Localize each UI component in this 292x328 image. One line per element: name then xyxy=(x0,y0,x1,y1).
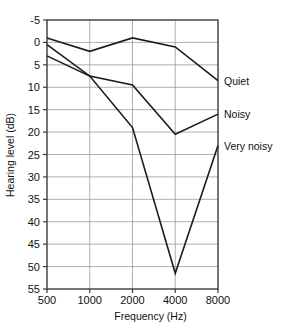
y-tick-label: 20 xyxy=(28,126,40,138)
y-tick-label: 25 xyxy=(28,149,40,161)
y-axis-tick-labels-group: -50510152025303540455055 xyxy=(28,14,40,295)
y-tick-label: 50 xyxy=(28,261,40,273)
y-tick-label: 0 xyxy=(34,36,40,48)
series-label-quiet: Quiet xyxy=(224,75,249,87)
x-tick-label: 1000 xyxy=(78,294,102,306)
x-tick-label: 2000 xyxy=(120,294,144,306)
x-tick-label: 8000 xyxy=(206,294,230,306)
x-axis-tick-labels-group: 5001000200040008000 xyxy=(38,294,230,306)
y-tick-label: 10 xyxy=(28,81,40,93)
series-label-noisy: Noisy xyxy=(224,108,251,120)
y-axis-title: Hearing level (dB) xyxy=(4,113,16,197)
y-tick-label: 30 xyxy=(28,171,40,183)
x-tick-label: 4000 xyxy=(163,294,187,306)
y-tick-label: 35 xyxy=(28,193,40,205)
x-axis-title: Frequency (Hz) xyxy=(114,310,186,322)
series-label-very-noisy: Very noisy xyxy=(224,140,273,152)
y-tick-label: 40 xyxy=(28,216,40,228)
y-tick-label: 45 xyxy=(28,238,40,250)
series-labels-group: QuietNoisyVery noisy xyxy=(224,75,273,152)
x-tick-label: 500 xyxy=(38,294,56,306)
y-tick-label: -5 xyxy=(30,14,40,26)
chart-svg: -50510152025303540455055 500100020004000… xyxy=(0,0,292,328)
hearing-level-chart: -50510152025303540455055 500100020004000… xyxy=(0,0,292,328)
y-tick-label: 15 xyxy=(28,104,40,116)
y-tick-label: 5 xyxy=(34,59,40,71)
